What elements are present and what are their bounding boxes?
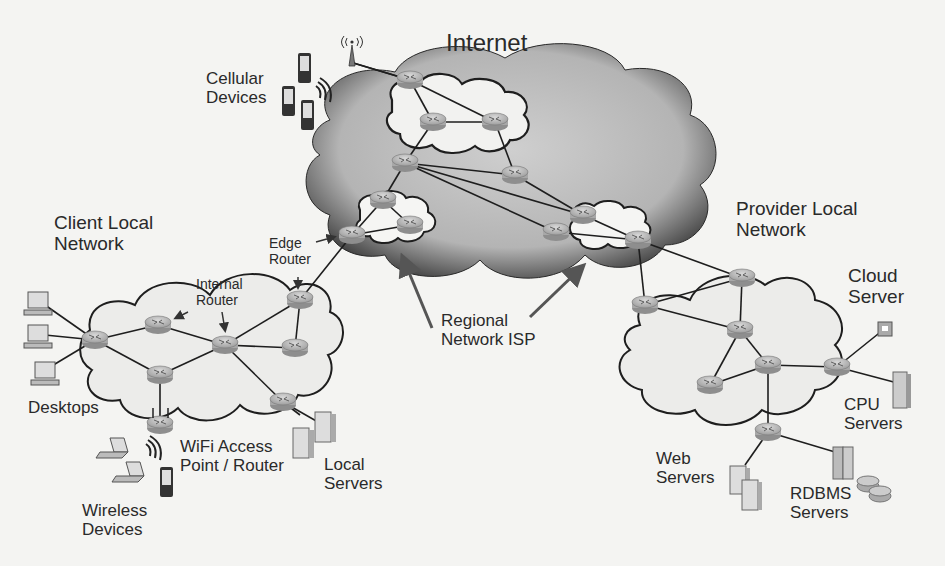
label-line: Servers	[844, 414, 903, 433]
router-icon	[625, 231, 651, 249]
desktop-icon	[24, 292, 52, 315]
web-servers-label: Web Servers	[656, 449, 715, 487]
label-line: Network ISP	[441, 330, 535, 349]
label-line: Cellular	[206, 69, 266, 88]
router-icon	[397, 216, 423, 234]
router-icon	[370, 191, 396, 209]
label-line: Servers	[656, 468, 715, 487]
cell-phone-icon	[160, 467, 173, 497]
internet-cloud	[306, 44, 716, 279]
provider-local-network-label: Provider Local Network	[736, 198, 857, 241]
router-icon	[147, 366, 173, 384]
web-servers	[730, 466, 762, 510]
label-line: Provider Local	[736, 198, 857, 219]
cloud-server-label: Cloud Server	[848, 265, 904, 308]
router-icon	[270, 393, 296, 411]
desktop-icon	[31, 362, 59, 385]
label-line: Regional	[441, 311, 535, 330]
wifi-router-icon	[147, 416, 173, 434]
label-line: Point / Router	[180, 456, 284, 475]
router-icon-edge-internet	[339, 226, 365, 244]
desktops-label: Desktops	[28, 398, 99, 417]
router-icon	[727, 321, 753, 339]
laptop-icon	[112, 462, 144, 482]
cell-phone-icon	[301, 100, 314, 130]
regional-network-isp-label: Regional Network ISP	[441, 311, 535, 349]
label-line: Wireless	[82, 501, 147, 520]
label-line: RDBMS	[790, 484, 851, 503]
desktop-icon	[24, 325, 52, 348]
router-icon	[282, 339, 308, 357]
server-icon	[742, 480, 762, 510]
database-icon	[857, 476, 891, 502]
label-line: Client Local	[54, 212, 153, 233]
router-icon	[824, 358, 850, 376]
label-line: Web	[656, 449, 715, 468]
label-line: Internal	[196, 277, 243, 293]
wireless-devices-label: Wireless Devices	[82, 501, 147, 539]
router-icon	[397, 71, 423, 89]
network-diagram	[0, 0, 945, 566]
wifi-access-point-label: WiFi Access Point / Router	[180, 437, 284, 475]
cellular-devices	[282, 53, 331, 130]
local-servers-label: Local Servers	[324, 455, 383, 493]
laptop-icon	[96, 438, 128, 458]
label-line: CPU	[844, 395, 903, 414]
label-line: Local	[324, 455, 383, 474]
server-icon	[293, 428, 314, 458]
router-icon	[543, 223, 569, 241]
label-line: WiFi Access	[180, 437, 284, 456]
label-line: Edge	[269, 236, 311, 252]
label-line: Devices	[82, 520, 147, 539]
router-icon-internal	[145, 316, 171, 334]
router-icon	[697, 376, 723, 394]
label-line: Network	[54, 233, 153, 254]
internal-router-label: Internal Router	[196, 277, 243, 308]
label-line: Server	[848, 286, 904, 307]
router-icon	[392, 154, 418, 172]
wifi-signal-icon	[146, 436, 161, 460]
router-icon	[420, 113, 446, 131]
server-icon	[315, 412, 336, 442]
label-line: Cloud	[848, 265, 904, 286]
router-icon	[82, 331, 108, 349]
router-icon	[755, 356, 781, 374]
rdbms-servers-label: RDBMS Servers	[790, 484, 851, 522]
router-icon	[502, 166, 528, 184]
label-line: Router	[196, 293, 243, 309]
cell-phone-icon	[282, 86, 295, 116]
router-icon	[570, 206, 596, 224]
router-icon-edge	[287, 291, 313, 309]
cell-tower-icon	[342, 36, 363, 66]
cpu-servers-label: CPU Servers	[844, 395, 903, 433]
cloud-server-icon	[878, 322, 892, 336]
server-rack-icon	[833, 447, 853, 479]
local-servers	[293, 412, 336, 458]
cellular-devices-label: Cellular Devices	[206, 69, 266, 107]
wireless-devices	[96, 436, 173, 497]
edge-router-label: Edge Router	[269, 236, 311, 267]
router-icon	[755, 423, 781, 441]
label-line: Devices	[206, 88, 266, 107]
label-line: Servers	[790, 503, 851, 522]
router-icon	[482, 113, 508, 131]
label-line: Network	[736, 219, 857, 240]
client-local-network-label: Client Local Network	[54, 212, 153, 255]
desktops	[24, 292, 59, 385]
router-icon	[729, 269, 755, 287]
internet-title: Internet	[446, 30, 527, 57]
label-line: Servers	[324, 474, 383, 493]
router-icon	[632, 296, 658, 314]
router-icon-internal	[212, 336, 238, 354]
cell-phone-icon	[298, 53, 311, 83]
label-line: Router	[269, 252, 311, 268]
